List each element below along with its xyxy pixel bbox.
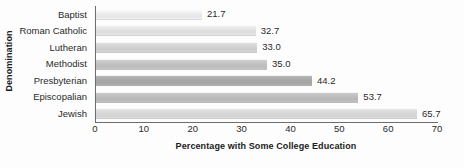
bar-chart-figure: Denomination Baptist Roman Catholic Luth… (0, 0, 464, 168)
bar[interactable]: 35.0 (96, 59, 267, 70)
bar-series: 21.7 32.7 33.0 35.0 44.2 (96, 6, 438, 122)
bar-value-label: 44.2 (317, 76, 336, 86)
bar[interactable]: 65.7 (96, 108, 417, 119)
x-tick-label: 50 (334, 124, 345, 134)
x-tick-label: 30 (236, 124, 247, 134)
category-axis: Baptist Roman Catholic Lutheran Methodis… (18, 6, 92, 122)
bar-row: 33.0 (96, 39, 438, 56)
bar-row: 21.7 (96, 6, 438, 23)
category-label: Lutheran (18, 39, 92, 56)
x-tick-label: 20 (187, 124, 198, 134)
category-label: Baptist (18, 6, 92, 23)
bar-value-label: 35.0 (272, 59, 291, 69)
bar-row: 32.7 (96, 23, 438, 40)
x-tick-label: 40 (285, 124, 296, 134)
bar-value-label: 33.0 (262, 43, 281, 53)
bar[interactable]: 44.2 (96, 75, 312, 86)
x-tick-label: 70 (432, 124, 443, 134)
bar-value-label: 32.7 (261, 26, 280, 36)
category-label: Jewish (18, 105, 92, 122)
category-label: Roman Catholic (18, 23, 92, 40)
x-axis-ticks: 0 10 20 30 40 50 60 70 (95, 124, 437, 138)
x-tick-label: 60 (383, 124, 394, 134)
bar-value-label: 53.7 (363, 92, 382, 102)
category-label: Episcopalian (18, 89, 92, 106)
y-axis-title: Denomination (0, 0, 18, 122)
bar-row: 35.0 (96, 56, 438, 73)
bar[interactable]: 33.0 (96, 42, 257, 53)
y-axis-title-text: Denomination (4, 30, 14, 91)
category-label: Presbyterian (18, 72, 92, 89)
bar[interactable]: 32.7 (96, 25, 256, 36)
bar-value-label: 21.7 (207, 10, 226, 20)
bar[interactable]: 53.7 (96, 92, 358, 103)
x-axis-title: Percentage with Some College Education (95, 141, 437, 151)
plot-area: 21.7 32.7 33.0 35.0 44.2 (95, 6, 438, 123)
bar[interactable]: 21.7 (96, 9, 202, 20)
bar-row: 65.7 (96, 105, 438, 122)
category-label: Methodist (18, 56, 92, 73)
x-tick-label: 0 (92, 124, 97, 134)
x-tick-label: 10 (139, 124, 150, 134)
bar-row: 44.2 (96, 72, 438, 89)
bar-value-label: 65.7 (422, 109, 441, 119)
bar-row: 53.7 (96, 89, 438, 106)
